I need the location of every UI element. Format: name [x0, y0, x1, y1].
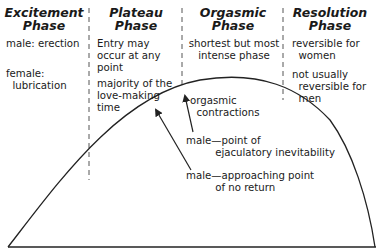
sexual-response-cycle-diagram: Excitement Phase Plateau Phase Orgasmic …: [0, 0, 376, 252]
note-majority-of-time: majority of the love-making time: [97, 78, 172, 114]
heading-excitement-line2: Phase: [0, 19, 88, 32]
heading-orgasmic-phase: Orgasmic Phase: [184, 6, 282, 32]
annotation-approaching-no-return: male—approaching point of no return: [186, 170, 314, 194]
note-not-reversible-men: not usually reversible for men: [292, 69, 366, 105]
annotation-orgasmic-contractions: orgasmic contractions: [190, 95, 260, 119]
note-female-lubrication: female: lubrication: [6, 68, 67, 92]
heading-plateau-phase: Plateau Phase: [90, 6, 182, 32]
annotation-point-of-inevitability: male—point of ejaculatory inevitability: [186, 135, 335, 159]
heading-resolution-line2: Phase: [284, 19, 376, 32]
note-entry-may-occur: Entry may occur at any point: [97, 38, 161, 74]
note-reversible-women: reversible for women: [292, 38, 360, 62]
note-male-erection: male: erection: [6, 38, 80, 50]
heading-plateau-line2: Phase: [90, 19, 182, 32]
heading-excitement-phase: Excitement Phase: [0, 6, 88, 32]
note-shortest-most-intense: shortest but most intense phase: [186, 38, 282, 62]
heading-orgasmic-line2: Phase: [184, 19, 282, 32]
heading-resolution-phase: Resolution Phase: [284, 6, 376, 32]
